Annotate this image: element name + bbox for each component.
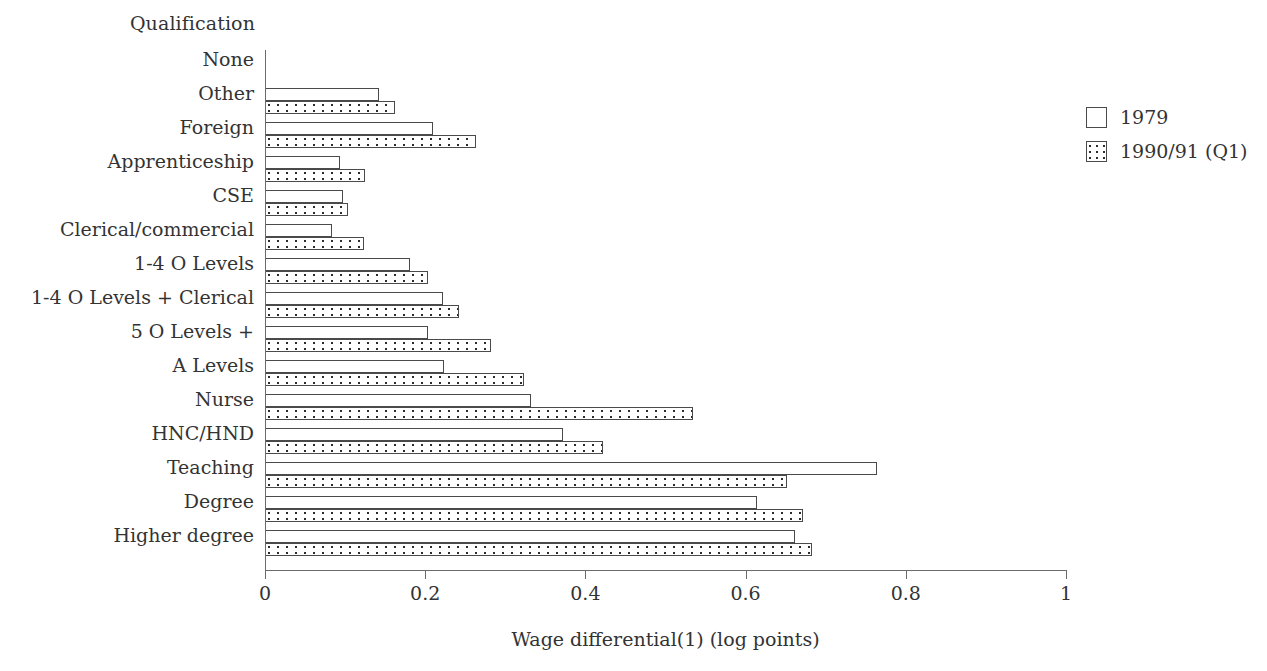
category-label: Degree [0, 490, 254, 512]
bar-series-1 [265, 496, 757, 509]
bar-series-1 [265, 428, 563, 441]
legend-swatch-icon [1086, 141, 1107, 162]
bar-series-1 [265, 292, 443, 305]
bar-series-2 [265, 441, 603, 454]
category-label: Higher degree [0, 524, 254, 546]
chart-row: Other [0, 84, 1267, 118]
bar-series-2 [265, 509, 803, 522]
x-axis-title: Wage differential(1) (log points) [265, 628, 1066, 650]
bar-series-2 [265, 101, 395, 114]
category-label: Clerical/commercial [0, 218, 254, 240]
chart-row: Nurse [0, 390, 1267, 424]
chart-row: 5 O Levels + [0, 322, 1267, 356]
bar-series-1 [265, 224, 332, 237]
bar-series-2 [265, 237, 364, 250]
legend-swatch-icon [1086, 107, 1107, 128]
category-label: 5 O Levels + [0, 320, 254, 342]
chart-row: CSE [0, 186, 1267, 220]
category-label: CSE [0, 184, 254, 206]
category-label: 1-4 O Levels + Clerical [0, 286, 254, 308]
bar-series-1 [265, 462, 877, 475]
legend-item[interactable]: 1979 [1086, 100, 1261, 134]
bar-group [265, 190, 1066, 218]
chart-row: Degree [0, 492, 1267, 526]
bar-group [265, 292, 1066, 320]
bar-series-1 [265, 530, 795, 543]
x-axis-tick [585, 570, 586, 579]
bar-group [265, 462, 1066, 490]
bar-group [265, 88, 1066, 116]
bar-series-1 [265, 156, 340, 169]
bar-series-2 [265, 407, 693, 420]
x-axis-tick [265, 570, 266, 579]
bar-series-2 [265, 135, 476, 148]
category-label: Other [0, 82, 254, 104]
chart-row: A Levels [0, 356, 1267, 390]
bar-group [265, 54, 1066, 82]
chart-row: 1-4 O Levels + Clerical [0, 288, 1267, 322]
bar-group [265, 428, 1066, 456]
category-label: Teaching [0, 456, 254, 478]
bar-series-2 [265, 543, 812, 556]
bar-series-1 [265, 360, 444, 373]
x-axis-tick [906, 570, 907, 579]
bar-group [265, 224, 1066, 252]
legend-label: 1979 [1120, 106, 1168, 128]
bar-series-1 [265, 190, 343, 203]
x-axis-tick [746, 570, 747, 579]
x-axis-tick-label: 0.4 [545, 582, 625, 604]
bar-group [265, 156, 1066, 184]
bar-group [265, 360, 1066, 388]
bar-series-1 [265, 258, 410, 271]
bar-group [265, 394, 1066, 422]
bar-series-2 [265, 339, 491, 352]
legend-label: 1990/91 (Q1) [1120, 140, 1247, 162]
category-label: Foreign [0, 116, 254, 138]
x-axis-tick [425, 570, 426, 579]
bar-series-2 [265, 373, 524, 386]
x-axis-tick-label: 1 [1026, 582, 1106, 604]
bar-series-2 [265, 271, 428, 284]
bar-series-2 [265, 475, 787, 488]
category-label: None [0, 48, 254, 70]
category-label: HNC/HND [0, 422, 254, 444]
chart-row: HNC/HND [0, 424, 1267, 458]
bar-series-2 [265, 305, 459, 318]
chart-row: None [0, 50, 1267, 84]
bar-group [265, 122, 1066, 150]
chart-row: Clerical/commercial [0, 220, 1267, 254]
bar-group [265, 258, 1066, 286]
legend-item[interactable]: 1990/91 (Q1) [1086, 134, 1261, 168]
bar-series-2 [265, 169, 365, 182]
chart-row: Higher degree [0, 526, 1267, 560]
x-axis-tick-label: 0.2 [385, 582, 465, 604]
chart-row: Teaching [0, 458, 1267, 492]
bar-series-1 [265, 394, 531, 407]
bar-series-1 [265, 326, 428, 339]
category-label: A Levels [0, 354, 254, 376]
y-axis-line [265, 50, 266, 570]
bar-series-2 [265, 203, 348, 216]
x-axis-tick [1066, 570, 1067, 579]
chart-row: Foreign [0, 118, 1267, 152]
category-label: Nurse [0, 388, 254, 410]
category-label: Apprenticeship [0, 150, 254, 172]
chart-rows: NoneOtherForeignApprenticeshipCSEClerica… [0, 50, 1267, 560]
bar-series-1 [265, 122, 433, 135]
chart-legend: 19791990/91 (Q1) [1086, 100, 1261, 168]
chart-row: 1-4 O Levels [0, 254, 1267, 288]
y-axis-title: Qualification [0, 12, 255, 34]
x-axis-tick-label: 0 [225, 582, 305, 604]
bar-group [265, 530, 1066, 558]
bar-series-1 [265, 88, 379, 101]
bar-group [265, 326, 1066, 354]
chart-row: Apprenticeship [0, 152, 1267, 186]
x-axis-tick-label: 0.6 [706, 582, 786, 604]
category-label: 1-4 O Levels [0, 252, 254, 274]
x-axis-tick-label: 0.8 [866, 582, 946, 604]
wage-differential-bar-chart: Qualification NoneOtherForeignApprentice… [0, 0, 1267, 671]
x-axis-line [265, 570, 1066, 571]
bar-group [265, 496, 1066, 524]
